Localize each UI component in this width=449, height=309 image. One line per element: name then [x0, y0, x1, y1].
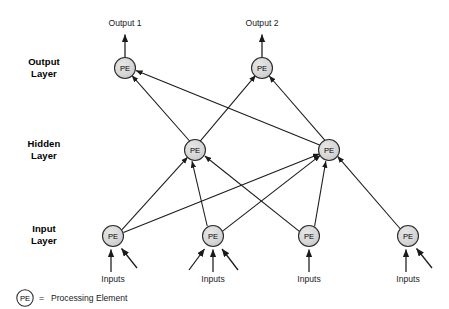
node-label: PE	[190, 146, 200, 155]
edge-in2-hid2	[223, 155, 321, 231]
edge-in4-hid2	[338, 156, 401, 229]
edge-hid2-out2	[269, 76, 325, 140]
layer-label-hidden: Hidden Layer	[12, 138, 76, 161]
node-label: PE	[324, 146, 334, 155]
layer-label-hidden-line2: Layer	[12, 150, 76, 162]
node-label: PE	[257, 64, 267, 73]
node-in-pe-2[interactable]: PE	[203, 226, 224, 247]
legend-equals: =	[39, 293, 44, 303]
node-in-pe-1[interactable]: PE	[103, 226, 124, 247]
inputs-label-1: Inputs	[78, 274, 148, 284]
input-arrow-1b	[122, 249, 138, 269]
node-out-pe-2[interactable]: PE	[252, 58, 273, 79]
node-in-pe-3[interactable]: PE	[299, 226, 320, 247]
node-label: PE	[208, 232, 218, 241]
edge-in1-hid2	[123, 154, 319, 233]
input-arrow-4b	[417, 249, 433, 269]
layer-label-input-line1: Input	[12, 223, 76, 235]
output-layer-nodes: PE PE	[115, 58, 273, 79]
inputs-label-4: Inputs	[373, 274, 443, 284]
output-label-1: Output 1	[90, 18, 160, 28]
output-arrows	[125, 35, 262, 58]
layer-label-input: Input Layer	[12, 223, 76, 246]
node-hid-pe-2[interactable]: PE	[319, 140, 340, 161]
output-label-2: Output 2	[227, 18, 297, 28]
legend-pe-symbol: PE	[17, 290, 33, 306]
edges-input-to-hidden	[122, 154, 400, 233]
legend-description: Processing Element	[51, 293, 127, 303]
edge-hid1-out1	[132, 76, 190, 141]
layer-label-output: Output Layer	[12, 56, 76, 79]
edge-in2-hid1	[192, 161, 207, 226]
inputs-label-2: Inputs	[178, 274, 248, 284]
node-out-pe-1[interactable]: PE	[115, 58, 136, 79]
input-arrow-2c	[222, 249, 238, 270]
layer-label-output-line2: Layer	[12, 68, 76, 80]
layer-label-hidden-line1: Hidden	[12, 138, 76, 150]
edge-hid2-out1	[136, 71, 320, 145]
hidden-layer-nodes: PE PE	[185, 140, 340, 161]
layer-label-output-line1: Output	[12, 56, 76, 68]
node-label: PE	[304, 232, 314, 241]
node-label: PE	[108, 232, 118, 241]
inputs-label-3: Inputs	[274, 274, 344, 284]
node-label: PE	[120, 64, 130, 73]
node-label: PE	[403, 232, 413, 241]
input-stimulus-arrows	[111, 249, 432, 273]
node-hid-pe-1[interactable]: PE	[185, 140, 206, 161]
edge-in1-hid1	[122, 157, 188, 230]
edge-in3-hid2	[315, 161, 326, 226]
neural-network-diagram: PE PE PE PE PE PE	[0, 0, 449, 309]
layer-label-input-line2: Layer	[12, 235, 76, 247]
legend-node-label: PE	[20, 294, 30, 303]
input-arrow-2a	[189, 249, 205, 270]
edges-hidden-to-output	[132, 71, 325, 145]
node-in-pe-4[interactable]: PE	[398, 226, 419, 247]
input-layer-nodes: PE PE PE PE	[103, 226, 419, 247]
